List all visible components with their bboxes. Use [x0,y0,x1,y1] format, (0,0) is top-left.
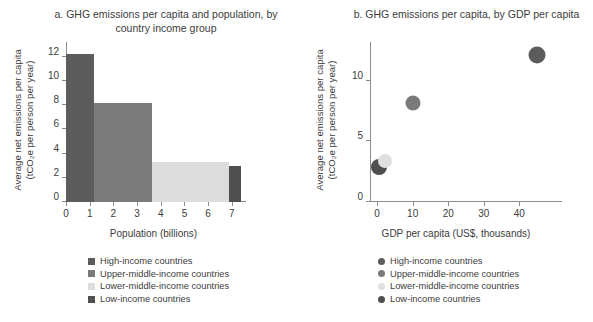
chart-b-data-point [378,154,392,168]
chart-a-y-tick [62,177,66,178]
chart-a-y-tick [62,128,66,129]
chart-a-y-axis-label-line1: Average net emissions per capita [12,35,24,205]
chart-a-x-axis-label: Population (billions) [46,228,261,239]
chart-a-y-tick [62,104,66,105]
chart-a-y-axis-label: Average net emissions per capita (tCO₂e … [12,35,35,205]
chart-a-bar [229,166,241,202]
chart-b-y-axis-label-line2: (tCO₂e per person per year) [326,35,338,205]
chart-b-legend: High-income countriesUpper-middle-income… [378,255,519,305]
legend-circle-icon [378,283,385,290]
chart-a-legend: High-income countriesUpper-middle-income… [88,255,229,305]
chart-a-bar [66,54,94,202]
chart-a-x-tick-label: 5 [182,209,188,219]
chart-a-x-tick-label: 2 [111,209,117,219]
chart-b-title-line1: b. GHG emissions per capita, [354,8,491,20]
chart-b-x-tick [484,202,485,206]
chart-a-legend-label: Lower-middle-income countries [100,280,229,293]
chart-a-y-tick-label: 2 [53,168,59,178]
chart-b-x-tick [413,202,414,206]
chart-a-x-tick-label: 7 [229,209,235,219]
chart-b-x-tick-label: 0 [374,209,380,219]
chart-b-legend-label: Lower-middle-income countries [390,280,519,293]
chart-a-y-tick-label: 0 [53,192,59,202]
chart-a-y-axis-label-line2: (tCO₂e per person per year) [24,35,36,205]
chart-b-y-tick [366,201,370,202]
legend-circle-icon [378,270,385,277]
chart-a-x-tick-label: 1 [87,209,93,219]
chart-a-y-tick [62,153,66,154]
chart-a-y-tick-label: 10 [48,71,59,81]
chart-b-legend-label: Low-income countries [390,293,480,306]
chart-b-legend-item: Lower-middle-income countries [378,280,519,293]
chart-b-legend-item: Low-income countries [378,293,519,306]
chart-a-y-tick-label: 12 [48,47,59,57]
chart-b-x-tick [448,202,449,206]
chart-a-legend-item: Lower-middle-income countries [88,280,229,293]
chart-b-y-tick-label: 0 [357,192,363,202]
legend-circle-icon [378,258,385,265]
chart-b-title: b. GHG emissions per capita, by GDP per … [300,8,593,22]
chart-b-x-tick-label: 20 [443,209,454,219]
chart-panel-a: a. GHG emissions per capita and populati… [0,0,300,322]
chart-a-x-tick-label: 4 [158,209,164,219]
chart-a-legend-label: Upper-middle-income countries [100,268,229,281]
chart-b-y-tick-label: 5 [357,131,363,141]
chart-b-x-tick [519,202,520,206]
chart-b-legend-item: Upper-middle-income countries [378,268,519,281]
chart-panel-b: b. GHG emissions per capita, by GDP per … [300,0,593,322]
chart-b-x-axis-label: GDP per capita (US$, thousands) [336,228,576,239]
chart-a-x-tick [66,202,67,206]
chart-a-x-tick-label: 3 [134,209,140,219]
chart-b-y-axis-line [370,42,371,202]
chart-b-x-axis-line [370,201,562,202]
chart-a-legend-item: Upper-middle-income countries [88,268,229,281]
chart-b-legend-label: Upper-middle-income countries [390,268,519,281]
legend-square-icon [88,258,95,265]
chart-a-x-tick [113,202,114,206]
chart-b-plot-area: 0510 010203040 [370,42,562,202]
chart-b-legend-label: High-income countries [390,255,483,268]
chart-a-y-tick [62,80,66,81]
chart-a-bar [152,162,229,202]
chart-b-y-tick-label: 10 [352,71,363,81]
legend-square-icon [88,270,95,277]
legend-square-icon [88,283,95,290]
chart-b-x-tick-label: 10 [407,209,418,219]
chart-b-legend-item: High-income countries [378,255,519,268]
chart-a-bar [94,103,152,202]
chart-b-y-axis-label: Average net emissions per capita (tCO₂e … [314,35,337,205]
chart-a-x-tick [161,202,162,206]
chart-a-x-tick [208,202,209,206]
chart-a-plot-area: 024681012 01234567 [66,42,246,202]
chart-b-title-line2: by GDP per capita [494,8,580,20]
chart-a-y-tick [62,56,66,57]
chart-b-x-tick-label: 40 [514,209,525,219]
chart-a-y-tick-label: 4 [53,144,59,154]
chart-b-y-axis-label-line1: Average net emissions per capita [314,35,326,205]
chart-a-y-tick-label: 6 [53,119,59,129]
chart-a-title: a. GHG emissions per capita and populati… [0,8,300,35]
chart-a-y-tick-label: 8 [53,95,59,105]
chart-a-x-tick [184,202,185,206]
chart-b-y-tick [366,140,370,141]
chart-a-legend-item: High-income countries [88,255,229,268]
legend-square-icon [88,296,95,303]
legend-circle-icon [378,296,385,303]
chart-a-legend-label: Low-income countries [100,293,190,306]
chart-a-x-tick [232,202,233,206]
chart-a-title-line1: a. GHG emissions per capita and populati… [55,8,264,20]
chart-b-x-tick [377,202,378,206]
chart-a-legend-item: Low-income countries [88,293,229,306]
chart-a-x-tick-label: 6 [205,209,211,219]
chart-a-x-tick-label: 0 [63,209,69,219]
chart-b-x-tick-label: 30 [478,209,489,219]
chart-a-x-tick [90,202,91,206]
chart-b-data-point [405,95,420,110]
chart-a-x-tick [137,202,138,206]
chart-b-y-tick [366,80,370,81]
chart-b-data-point [529,47,546,64]
chart-a-legend-label: High-income countries [100,255,193,268]
